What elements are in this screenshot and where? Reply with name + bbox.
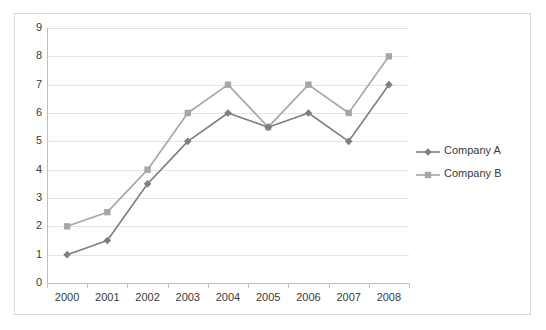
x-tick-label: 2007	[326, 291, 372, 303]
gridline	[47, 28, 409, 29]
gridline	[47, 113, 409, 114]
y-tick-label: 1	[14, 249, 42, 260]
x-tick	[168, 283, 169, 288]
square-marker-icon	[415, 167, 441, 179]
x-tick-label: 2004	[205, 291, 251, 303]
x-tick	[288, 283, 289, 288]
x-tick	[208, 283, 209, 288]
x-tick-label: 2001	[84, 291, 130, 303]
x-tick	[409, 283, 410, 288]
x-tick-label: 2000	[44, 291, 90, 303]
gridline	[47, 170, 409, 171]
x-tick-label: 2002	[125, 291, 171, 303]
x-tick	[248, 283, 249, 288]
gridline	[47, 226, 409, 227]
y-tick-label: 6	[14, 107, 42, 118]
chart-legend: Company ACompany B	[415, 142, 535, 188]
x-tick	[87, 283, 88, 288]
gridline	[47, 198, 409, 199]
y-tick-label: 3	[14, 192, 42, 203]
legend-item-company-a[interactable]: Company A	[415, 142, 501, 158]
y-tick-label: 9	[14, 22, 42, 33]
x-tick-label: 2008	[366, 291, 412, 303]
x-tick	[47, 283, 48, 288]
x-tick-label: 2005	[245, 291, 291, 303]
gridline	[47, 283, 409, 284]
y-axis-line	[47, 28, 48, 284]
x-tick-label: 2006	[285, 291, 331, 303]
y-tick-label: 4	[14, 164, 42, 175]
gridline	[47, 85, 409, 86]
y-tick-label: 8	[14, 50, 42, 61]
x-tick	[127, 283, 128, 288]
gridline	[47, 255, 409, 256]
line-chart: 0123456789 20002001200220032004200520062…	[0, 0, 546, 330]
diamond-marker-icon	[415, 144, 441, 156]
y-tick-label: 7	[14, 79, 42, 90]
legend-label: Company B	[444, 167, 501, 179]
y-tick-label: 2	[14, 220, 42, 231]
gridline	[47, 56, 409, 57]
x-tick	[329, 283, 330, 288]
x-tick	[369, 283, 370, 288]
legend-item-company-b[interactable]: Company B	[415, 165, 501, 181]
y-tick-label: 0	[14, 277, 42, 288]
legend-label: Company A	[444, 144, 501, 156]
y-axis-labels: 0123456789	[8, 0, 42, 330]
x-tick-label: 2003	[165, 291, 211, 303]
y-tick-label: 5	[14, 135, 42, 146]
gridline	[47, 141, 409, 142]
